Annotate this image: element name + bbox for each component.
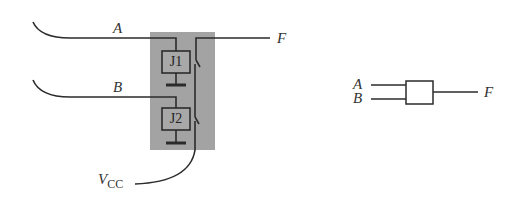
input-b-label: B <box>113 80 122 95</box>
logic-input-b-label: B <box>353 91 362 106</box>
circuit-drawing <box>0 0 523 208</box>
relay-j1-label: J1 <box>162 55 190 69</box>
vcc-label-main: V <box>98 171 107 187</box>
relay-panel <box>150 32 215 150</box>
output-f-label: F <box>277 31 286 46</box>
input-a-label: A <box>113 21 122 36</box>
relay-logic-diagram: A B J1 J2 F VCC A B F <box>0 0 523 208</box>
logic-output-f-label: F <box>484 85 493 100</box>
vcc-label-sub: CC <box>107 177 123 191</box>
relay-j2-label: J2 <box>162 112 190 126</box>
vcc-label: VCC <box>98 172 123 187</box>
logic-gate-box <box>406 81 433 104</box>
